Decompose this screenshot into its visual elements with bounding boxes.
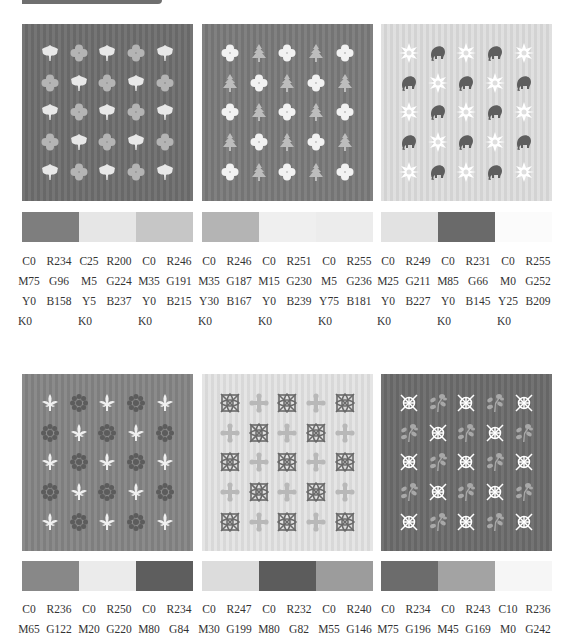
clover-icon [335,102,355,122]
cross-icon [249,393,269,413]
color-codes-1: C0R234C25R200C0R246M75G96M5G224M35G191Y0… [14,251,194,331]
rgb-value: B209 [523,291,553,311]
leaf-icon [69,132,89,152]
leaf-icon [97,43,117,63]
color-swatch-row-5 [202,561,373,591]
clover-icon [126,102,146,122]
cmyk-value: M30 [194,619,224,635]
cross-icon [306,393,326,413]
medallion-icon [514,102,534,122]
elephant-icon [485,102,505,122]
pattern-panel-5 [202,374,373,551]
cmyk-value: C25 [74,251,104,271]
medallion-icon [456,162,476,182]
fleur-de-lis-icon [69,482,89,502]
clover-icon [277,162,297,182]
cmyk-value: M75 [14,271,44,291]
rgb-value: R250 [104,599,134,619]
color-codes-5: C0R247C0R232C0R240M30G199M80G82M55G146 [194,599,374,635]
cross-icon [335,423,355,443]
color-swatch-row-2 [202,212,373,242]
target-cross-icon [514,452,534,472]
cmyk-value: Y0 [134,291,164,311]
color-swatch-row-3 [381,212,552,242]
fleur-de-lis-icon [97,393,117,413]
leaf-icon [155,162,175,182]
rgb-value: G252 [523,271,553,291]
color-swatch [259,212,316,242]
rgb-value: R243 [463,599,493,619]
rgb-value: G169 [463,619,493,635]
cmyk-value: M25 [373,271,403,291]
cmyk-value: C0 [314,251,344,271]
clover-icon [40,132,60,152]
cmyk-value: M55 [314,619,344,635]
target-cross-icon [456,512,476,532]
rgb-value [284,311,314,331]
color-swatch [381,212,438,242]
ornate-square-icon [277,452,297,472]
pattern-panel-4 [22,374,193,551]
ornate-square-icon [277,393,297,413]
ornate-square-icon [220,452,240,472]
rosette-icon [155,423,175,443]
target-cross-icon [514,393,534,413]
cmyk-value: C0 [254,599,284,619]
clover-icon [306,73,326,93]
pine-tree-icon [335,73,355,93]
color-codes-3: C0R249C0R231C0R255M25G211M85G66M0G252Y0B… [373,251,553,331]
pine-tree-icon [249,43,269,63]
target-cross-icon [399,452,419,472]
cross-icon [306,452,326,472]
rgb-value: R251 [284,251,314,271]
medallion-icon [485,73,505,93]
pattern-panel-6 [381,374,552,551]
pine-tree-icon [220,73,240,93]
cmyk-value: C0 [373,599,403,619]
color-swatch [381,561,438,591]
clover-icon [220,102,240,122]
cmyk-value: M45 [433,619,463,635]
pattern-panel-2 [202,24,373,201]
cmyk-value: M15 [254,271,284,291]
leaf-icon [69,73,89,93]
rgb-value: R236 [44,599,74,619]
cross-icon [306,512,326,532]
cmyk-value: M85 [433,271,463,291]
rgb-value: R231 [463,251,493,271]
color-swatch [202,561,259,591]
pine-tree-icon [306,162,326,182]
cmyk-value: M35 [134,271,164,291]
sprig-icon [485,452,505,472]
cmyk-value: C0 [433,599,463,619]
rosette-icon [126,393,146,413]
rosette-icon [126,512,146,532]
fleur-de-lis-icon [40,452,60,472]
cmyk-value: Y25 [493,291,523,311]
clover-icon [69,43,89,63]
sprig-icon [485,512,505,532]
color-codes-2: C0R246C0R251C0R255M35G187M15G230M5G236Y3… [194,251,374,331]
cmyk-value: M35 [194,271,224,291]
cmyk-value: K0 [493,311,523,331]
color-codes-6: C0R234C0R243C10R236M75G196M45G169M0G242 [373,599,553,635]
pine-tree-icon [277,73,297,93]
target-cross-icon [428,423,448,443]
elephant-icon [514,132,534,152]
rgb-value: G187 [224,271,254,291]
elephant-icon [485,162,505,182]
rgb-value: R234 [403,599,433,619]
rosette-icon [69,512,89,532]
fleur-de-lis-icon [97,512,117,532]
medallion-icon [514,162,534,182]
cross-icon [335,482,355,502]
color-swatch [22,561,79,591]
fleur-de-lis-icon [155,393,175,413]
target-cross-icon [514,512,534,532]
rgb-value: G84 [164,619,194,635]
cmyk-value: K0 [373,311,403,331]
cmyk-value: C0 [373,251,403,271]
rosette-icon [97,423,117,443]
cmyk-value: K0 [194,311,224,331]
color-swatch-row-4 [22,561,193,591]
